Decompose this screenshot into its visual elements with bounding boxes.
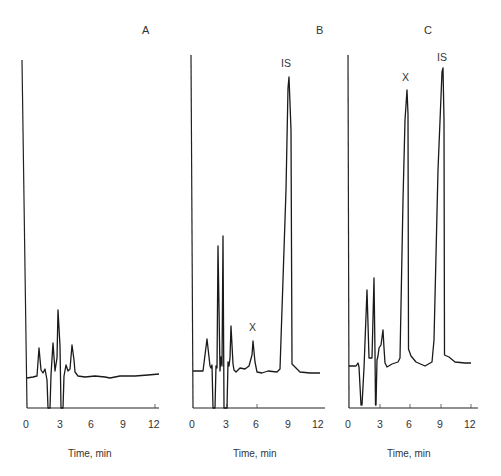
tick-label-9: 9 xyxy=(120,418,126,430)
peak-label-is: IS xyxy=(281,57,291,69)
tick-label-3: 3 xyxy=(57,418,63,430)
panel-a-trace xyxy=(27,310,159,408)
panel-b-peak-labels: X IS xyxy=(249,57,291,333)
tick-label-9: 9 xyxy=(437,418,443,430)
panel-c-x-tick-labels: 0 3 6 9 12 xyxy=(345,418,476,430)
tick-label-0: 0 xyxy=(23,418,29,430)
tick-label-3: 3 xyxy=(223,418,229,430)
panel-a-x-axis-title: Time, min xyxy=(68,448,112,459)
panel-a: A 0 3 6 9 12 Time, min xyxy=(22,24,160,459)
panel-b-x-tick-labels: 0 3 6 9 12 xyxy=(189,418,324,430)
panel-a-x-tick-labels: 0 3 6 9 12 xyxy=(23,418,160,430)
panel-a-y-axis xyxy=(22,60,27,408)
chromatogram-figure: A 0 3 6 9 12 Time, min B X IS 0 xyxy=(0,0,501,476)
panel-b-trace xyxy=(193,77,320,408)
panel-b-y-axis xyxy=(191,55,193,408)
tick-label-0: 0 xyxy=(189,418,195,430)
panel-c-trace xyxy=(349,68,471,405)
panel-c-letter: C xyxy=(424,24,432,36)
tick-label-12: 12 xyxy=(464,418,476,430)
panel-a-letter: A xyxy=(142,24,150,36)
peak-label-x: X xyxy=(249,321,256,333)
tick-label-6: 6 xyxy=(253,418,259,430)
tick-label-12: 12 xyxy=(148,418,160,430)
peak-label-x: X xyxy=(402,71,409,83)
panel-c-x-axis-title: Time, min xyxy=(387,448,431,459)
panel-b-letter: B xyxy=(316,24,323,36)
panel-b: B X IS 0 3 6 9 12 Time, min xyxy=(189,24,325,459)
tick-label-9: 9 xyxy=(285,418,291,430)
panel-c: C X IS 0 3 6 9 12 Time, min xyxy=(345,24,478,459)
tick-label-3: 3 xyxy=(377,418,383,430)
panel-c-y-axis xyxy=(348,55,349,408)
panel-b-x-axis-title: Time, min xyxy=(233,448,277,459)
panel-c-peak-labels: X IS xyxy=(402,51,447,83)
tick-label-6: 6 xyxy=(88,418,94,430)
tick-label-0: 0 xyxy=(345,418,351,430)
tick-label-6: 6 xyxy=(406,418,412,430)
tick-label-12: 12 xyxy=(312,418,324,430)
peak-label-is: IS xyxy=(437,51,447,63)
